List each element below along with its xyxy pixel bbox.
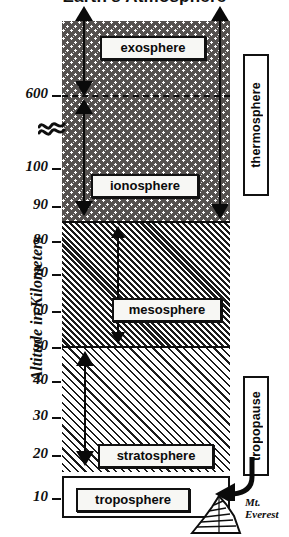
layer-label-mesosphere: mesosphere — [112, 298, 222, 322]
y-tick-label-50: 50 — [2, 337, 48, 354]
layer-label-stratosphere: stratosphere — [98, 444, 214, 468]
arrow-head-thermosphere-bottom — [211, 204, 229, 219]
y-tick-label-30: 30 — [2, 407, 48, 424]
arrow-shaft-exosphere — [83, 19, 85, 83]
side-label-thermosphere-text: thermosphere — [249, 82, 263, 168]
side-label-tropopause-text: tropopause — [249, 391, 263, 461]
y-tick-mark-600 — [52, 95, 61, 97]
y-tick-label-80: 80 — [2, 231, 48, 248]
arrow-shaft-thermosphere — [219, 19, 221, 205]
y-tick-mark-90 — [52, 206, 61, 208]
boundary-line-85km — [62, 221, 230, 223]
y-tick-mark-60 — [52, 311, 61, 313]
y-tick-mark-20 — [52, 455, 61, 457]
layer-label-exosphere: exosphere — [100, 36, 206, 60]
layer-label-troposphere: troposphere — [76, 488, 190, 512]
band-mesosphere — [62, 222, 230, 347]
y-tick-label-70: 70 — [2, 264, 48, 281]
figure-title: Earth's Atmosphere — [0, 0, 289, 7]
y-tick-label-40: 40 — [2, 371, 48, 388]
plot-area: exosphere ionosphere mesosphere stratosp… — [62, 21, 230, 490]
mount-everest-icon — [190, 492, 242, 535]
y-tick-mark-40 — [52, 381, 61, 383]
arrow-head-exosphere-bottom — [75, 81, 93, 96]
y-tick-mark-50 — [52, 347, 61, 349]
y-tick-label-20: 20 — [2, 445, 48, 462]
layer-label-ionosphere: ionosphere — [91, 174, 199, 198]
y-tick-label-10: 10 — [2, 488, 48, 505]
y-tick-mark-30 — [52, 417, 61, 419]
arrow-head-ionosphere-bottom — [75, 201, 93, 216]
earths-atmosphere-diagram: Earth's Atmosphere — [0, 0, 289, 537]
y-tick-mark-10 — [52, 498, 61, 500]
y-tick-mark-80 — [52, 241, 61, 243]
y-tick-label-90: 90 — [2, 196, 48, 213]
mount-everest-caption-line2: Everest — [245, 509, 279, 521]
y-tick-label-60: 60 — [2, 301, 48, 318]
boundary-line-50km — [62, 346, 230, 348]
y-tick-label-100: 100 — [2, 158, 48, 175]
mount-everest-caption-line1: Mt. — [245, 497, 279, 509]
side-label-thermosphere: thermosphere — [243, 54, 269, 196]
arrow-shaft-ionosphere — [83, 111, 85, 203]
y-tick-label-600: 600 — [2, 85, 48, 102]
arrow-shaft-stratosphere — [84, 363, 86, 453]
y-tick-mark-100 — [52, 168, 61, 170]
arrow-head-mesosphere-bottom — [111, 332, 125, 344]
arrow-head-stratosphere-bottom — [76, 451, 94, 466]
y-tick-mark-70 — [52, 274, 61, 276]
mount-everest-caption: Mt. Everest — [245, 497, 279, 520]
axis-break-squiggle-icon — [38, 118, 66, 138]
